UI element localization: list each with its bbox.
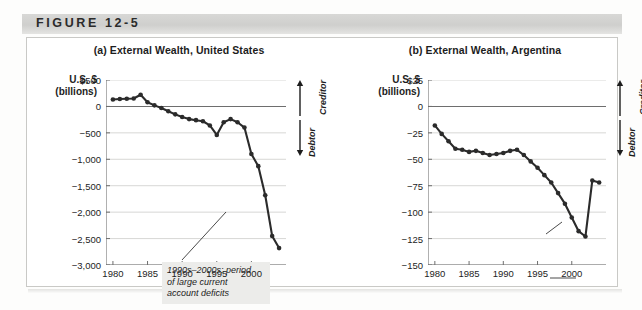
plot-area-us bbox=[106, 80, 286, 265]
data-point bbox=[194, 118, 199, 123]
data-point bbox=[208, 123, 213, 128]
x-tick-label: 1990 bbox=[493, 268, 514, 279]
x-tick-label: 1990 bbox=[172, 268, 193, 279]
data-point bbox=[180, 115, 185, 120]
data-point bbox=[474, 149, 479, 154]
x-tick-label: 2000 bbox=[241, 268, 262, 279]
data-point bbox=[173, 112, 178, 117]
data-point bbox=[152, 103, 157, 108]
arrow-up-icon bbox=[617, 80, 623, 86]
data-point bbox=[118, 97, 123, 102]
data-point bbox=[501, 151, 506, 156]
arrow-up-icon bbox=[297, 80, 303, 86]
arrow-down-icon bbox=[617, 150, 623, 156]
figure-number-label: FIGURE 12-5 bbox=[36, 16, 140, 30]
data-point bbox=[480, 151, 485, 156]
data-point bbox=[439, 132, 444, 137]
chart-title-us: (a) External Wealth, United States bbox=[36, 44, 322, 56]
data-point bbox=[256, 164, 261, 169]
creditor-debtor-gauge-arg: CreditorDebtor bbox=[612, 80, 642, 156]
data-point bbox=[235, 120, 240, 125]
data-series-line bbox=[113, 95, 279, 248]
data-point bbox=[446, 139, 451, 144]
y-tick-label: 0 bbox=[376, 101, 423, 112]
creditor-debtor-gauge-us: CreditorDebtor bbox=[292, 80, 326, 156]
y-axis-unit-line2-us: (billions) bbox=[35, 86, 97, 98]
arrow-down-icon bbox=[297, 150, 303, 156]
data-point bbox=[131, 96, 136, 101]
x-tick-label: 1985 bbox=[458, 268, 479, 279]
y-tick-label: −100 bbox=[376, 207, 423, 218]
y-tick-label: −50 bbox=[376, 154, 423, 165]
y-tick-label: −75 bbox=[376, 180, 423, 191]
data-point bbox=[124, 96, 129, 101]
chart-svg-us bbox=[106, 80, 286, 265]
figure-root: FIGURE 12-5 (a) External Wealth, United … bbox=[0, 0, 642, 310]
data-point bbox=[576, 229, 581, 234]
y-tick-label: −150 bbox=[376, 260, 423, 271]
data-point bbox=[508, 149, 513, 154]
data-point bbox=[590, 178, 595, 183]
data-series-line bbox=[435, 125, 599, 236]
x-tick-label: 1980 bbox=[102, 268, 123, 279]
y-tick-label: $25 bbox=[376, 75, 423, 86]
data-point bbox=[494, 152, 499, 157]
x-tick-label: 1980 bbox=[424, 268, 445, 279]
data-point bbox=[453, 146, 458, 151]
debtor-label: Debtor bbox=[307, 128, 317, 157]
chart-svg-arg bbox=[428, 80, 606, 265]
data-point bbox=[138, 93, 143, 98]
data-point bbox=[166, 109, 171, 114]
data-point bbox=[563, 201, 568, 206]
y-tick-label: −2,500 bbox=[54, 233, 101, 244]
creditor-label: Creditor bbox=[318, 80, 328, 115]
data-point bbox=[270, 234, 275, 239]
data-point bbox=[242, 125, 247, 130]
data-point bbox=[528, 159, 533, 164]
data-point bbox=[145, 100, 150, 105]
data-point bbox=[583, 234, 588, 239]
y-tick-label: 0 bbox=[54, 101, 101, 112]
data-point bbox=[159, 106, 164, 111]
data-point bbox=[214, 133, 219, 138]
y-tick-label: −500 bbox=[54, 127, 101, 138]
debtor-label: Debtor bbox=[627, 128, 637, 157]
y-tick-label: −3,000 bbox=[54, 260, 101, 271]
data-point bbox=[535, 165, 540, 170]
x-tick-label: 2000 bbox=[561, 268, 582, 279]
data-point bbox=[111, 97, 116, 102]
data-point bbox=[515, 147, 520, 152]
y-tick-label: $500 bbox=[54, 75, 101, 86]
data-point bbox=[249, 152, 254, 157]
data-point bbox=[221, 120, 226, 125]
y-axis-unit-line2-arg: (billions) bbox=[358, 86, 420, 98]
data-point bbox=[228, 117, 233, 122]
data-point bbox=[549, 180, 554, 185]
y-tick-label: −1,500 bbox=[54, 180, 101, 191]
data-point bbox=[277, 246, 282, 251]
y-tick-label: −1,000 bbox=[54, 154, 101, 165]
x-tick-label: 1995 bbox=[206, 268, 227, 279]
data-point bbox=[556, 191, 561, 196]
data-point bbox=[569, 215, 574, 220]
data-point bbox=[487, 153, 492, 158]
x-tick-label: 1985 bbox=[137, 268, 158, 279]
y-tick-label: −125 bbox=[376, 233, 423, 244]
data-point bbox=[263, 193, 268, 198]
data-point bbox=[597, 180, 602, 185]
data-point bbox=[522, 153, 527, 158]
panel-shadow bbox=[28, 289, 622, 293]
x-tick-label: 1995 bbox=[527, 268, 548, 279]
data-point bbox=[460, 147, 465, 152]
data-point bbox=[187, 117, 192, 122]
data-point bbox=[433, 123, 438, 128]
y-tick-label: −25 bbox=[376, 127, 423, 138]
chart-title-arg: (b) External Wealth, Argentina bbox=[340, 44, 630, 56]
data-point bbox=[467, 150, 472, 155]
plot-area-arg bbox=[428, 80, 606, 265]
y-tick-label: −2,000 bbox=[54, 207, 101, 218]
creditor-label: Creditor bbox=[638, 80, 642, 115]
data-point bbox=[201, 119, 206, 124]
data-point bbox=[542, 173, 547, 178]
